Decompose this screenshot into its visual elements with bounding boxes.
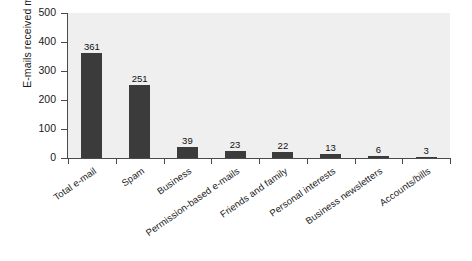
bar xyxy=(177,147,198,158)
bar-value-label: 6 xyxy=(355,144,401,155)
y-tick-label: 500 xyxy=(10,6,56,18)
plot-area xyxy=(68,13,450,158)
bar-value-label: 23 xyxy=(212,139,258,150)
y-tick-mark xyxy=(61,13,68,14)
bar-value-label: 361 xyxy=(69,41,115,52)
bar xyxy=(368,156,389,158)
x-tick-mark xyxy=(402,158,403,164)
bar-value-label: 39 xyxy=(164,135,210,146)
y-tick-mark xyxy=(61,129,68,130)
x-tick-mark xyxy=(68,158,69,164)
bar xyxy=(320,154,341,158)
y-tick-mark xyxy=(61,158,68,159)
bar xyxy=(81,53,102,158)
bar-value-label: 13 xyxy=(308,142,354,153)
x-axis-category-label: Accounts/bills xyxy=(262,165,432,261)
x-tick-mark xyxy=(259,158,260,164)
x-tick-mark xyxy=(450,158,451,164)
y-tick-mark xyxy=(61,71,68,72)
y-axis-line xyxy=(67,13,68,159)
bar-value-label: 22 xyxy=(260,140,306,151)
x-tick-mark xyxy=(355,158,356,164)
y-tick-mark xyxy=(61,100,68,101)
bar xyxy=(225,151,246,158)
y-tick-mark xyxy=(61,42,68,43)
y-tick-label: 200 xyxy=(10,93,56,105)
chart-figure: E-mails received monthly 010020030040050… xyxy=(0,0,472,261)
x-tick-mark xyxy=(307,158,308,164)
clipped-caption xyxy=(0,254,472,261)
bar-value-label: 251 xyxy=(117,73,163,84)
bar xyxy=(416,157,437,159)
y-tick-label: 400 xyxy=(10,35,56,47)
x-tick-mark xyxy=(116,158,117,164)
x-tick-mark xyxy=(211,158,212,164)
y-tick-label: 300 xyxy=(10,64,56,76)
bar-value-label: 3 xyxy=(403,145,449,156)
bar xyxy=(272,152,293,158)
bar xyxy=(129,85,150,158)
y-tick-label: 0 xyxy=(10,151,56,163)
y-tick-label: 100 xyxy=(10,122,56,134)
x-tick-mark xyxy=(164,158,165,164)
